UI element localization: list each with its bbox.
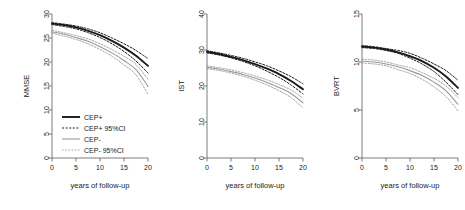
panel-ist: 01020304005101520years of follow-upIST <box>155 0 310 210</box>
y-axis-title: IST <box>177 80 186 92</box>
series-line <box>362 59 458 97</box>
legend-label: CEP+ <box>84 114 102 121</box>
x-axis-title: years of follow-up <box>71 181 130 190</box>
panel-bvrt: 05101505101520years of follow-upBVRT <box>310 0 465 210</box>
panel-mmse-curves <box>52 23 148 95</box>
panel-mmse-legend: CEP+CEP+ 95%CICEP-CEP- 95%CI <box>62 114 125 154</box>
x-axis-title: years of follow-up <box>226 181 285 190</box>
y-tick-label: 15 <box>43 82 50 90</box>
x-tick-label: 0 <box>205 164 209 171</box>
x-tick-label: 15 <box>430 164 438 171</box>
x-tick-label: 5 <box>384 164 388 171</box>
series-line <box>362 47 458 88</box>
panel-ist-axes: 01020304005101520years of follow-upIST <box>177 10 307 190</box>
multi-panel-figure: 05101520253005101520years of follow-upMM… <box>0 0 465 210</box>
series-line <box>207 67 303 103</box>
series-line <box>207 53 303 94</box>
y-axis-title: MMSE <box>22 75 31 98</box>
panel-mmse-svg: 05101520253005101520years of follow-upMM… <box>0 0 155 210</box>
x-tick-label: 10 <box>96 164 104 171</box>
x-axis-title: years of follow-up <box>381 181 440 190</box>
y-tick-label: 20 <box>198 82 205 90</box>
y-tick-label: 15 <box>353 10 360 18</box>
x-tick-label: 0 <box>50 164 54 171</box>
x-tick-label: 5 <box>74 164 78 171</box>
x-tick-label: 0 <box>360 164 364 171</box>
legend-label: CEP- 95%CI <box>84 147 124 154</box>
legend-label: CEP+ 95%CI <box>84 125 125 132</box>
y-axis-title: BVRT <box>332 76 341 96</box>
x-tick-label: 10 <box>251 164 259 171</box>
y-tick-label: 25 <box>43 34 50 42</box>
y-tick-label: 0 <box>43 156 50 160</box>
y-tick-label: 30 <box>43 10 50 18</box>
y-tick-label: 10 <box>43 106 50 114</box>
x-tick-label: 10 <box>406 164 414 171</box>
panel-ist-curves <box>207 51 303 108</box>
x-tick-label: 15 <box>120 164 128 171</box>
y-tick-label: 10 <box>353 58 360 66</box>
panel-bvrt-axes: 05101505101520years of follow-upBVRT <box>332 10 462 190</box>
panel-bvrt-curves <box>362 46 458 111</box>
y-tick-label: 20 <box>43 58 50 66</box>
y-tick-label: 30 <box>198 46 205 54</box>
x-tick-label: 20 <box>144 164 152 171</box>
x-tick-label: 15 <box>275 164 283 171</box>
y-tick-label: 40 <box>198 10 205 18</box>
x-tick-label: 20 <box>299 164 307 171</box>
panel-mmse: 05101520253005101520years of follow-upMM… <box>0 0 155 210</box>
y-tick-label: 0 <box>198 156 205 160</box>
x-tick-label: 20 <box>454 164 462 171</box>
x-tick-label: 5 <box>229 164 233 171</box>
panel-ist-svg: 01020304005101520years of follow-upIST <box>155 0 310 210</box>
y-tick-label: 0 <box>353 156 360 160</box>
y-tick-label: 5 <box>43 132 50 136</box>
panel-bvrt-svg: 05101505101520years of follow-upBVRT <box>310 0 465 210</box>
legend-label: CEP- <box>84 136 101 143</box>
series-line <box>52 33 148 94</box>
panel-mmse-axes: 05101520253005101520years of follow-upMM… <box>22 10 152 190</box>
y-tick-label: 5 <box>353 108 360 112</box>
y-tick-label: 10 <box>198 118 205 126</box>
